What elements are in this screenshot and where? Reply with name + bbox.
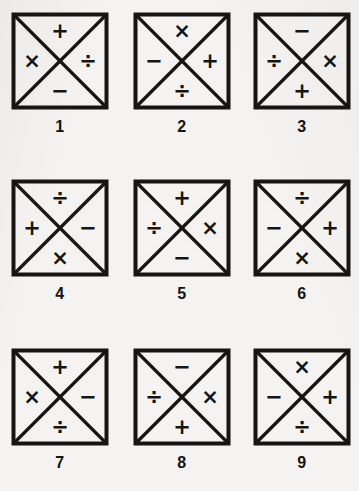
square-with-diagonals-6: ÷ − + × (253, 179, 351, 277)
symbol-top: + (11, 357, 109, 378)
symbol-top: × (253, 357, 351, 378)
symbol-right: × (195, 218, 225, 239)
symbol-left: + (17, 218, 47, 239)
figure-label-9: 9 (253, 454, 351, 472)
symbol-right: + (195, 51, 225, 72)
symbol-bottom: − (133, 248, 231, 269)
symbol-top: + (11, 21, 109, 42)
puzzle-figure-8[interactable]: − ÷ × + 8 (122, 336, 242, 491)
symbol-right: − (73, 387, 103, 408)
symbol-top: + (133, 188, 231, 209)
puzzle-figure-1[interactable]: + × ÷ − 1 (0, 0, 120, 169)
figure-label-2: 2 (133, 118, 231, 136)
figure-label-4: 4 (11, 285, 109, 303)
symbol-bottom: ÷ (11, 417, 109, 438)
square-with-diagonals-7: + × − ÷ (11, 348, 109, 446)
symbol-left: ÷ (259, 51, 289, 72)
square-with-diagonals-4: ÷ + − × (11, 179, 109, 277)
puzzle-figure-9[interactable]: × − + ÷ 9 (242, 336, 359, 491)
symbol-top: × (133, 21, 231, 42)
symbol-bottom: ÷ (253, 417, 351, 438)
puzzle-figure-2[interactable]: × − + ÷ 2 (122, 0, 242, 169)
symbol-right: × (195, 387, 225, 408)
figure-label-5: 5 (133, 285, 231, 303)
symbol-right: + (315, 387, 345, 408)
puzzle-figure-6[interactable]: ÷ − + × 6 (242, 167, 359, 336)
symbol-left: × (17, 51, 47, 72)
puzzle-figure-5[interactable]: + ÷ × − 5 (122, 167, 242, 336)
symbol-right: × (315, 51, 345, 72)
puzzle-figure-grid: + × ÷ − 1 × − + ÷ 2 − (0, 0, 359, 491)
figure-label-7: 7 (11, 454, 109, 472)
puzzle-figure-4[interactable]: ÷ + − × 4 (0, 167, 120, 336)
square-with-diagonals-8: − ÷ × + (133, 348, 231, 446)
symbol-bottom: + (133, 417, 231, 438)
square-with-diagonals-1: + × ÷ − (11, 12, 109, 110)
figure-label-3: 3 (253, 118, 351, 136)
figure-label-1: 1 (11, 118, 109, 136)
square-with-diagonals-9: × − + ÷ (253, 348, 351, 446)
puzzle-figure-3[interactable]: − ÷ × + 3 (242, 0, 359, 169)
symbol-top: ÷ (11, 188, 109, 209)
symbol-left: ÷ (139, 218, 169, 239)
square-with-diagonals-2: × − + ÷ (133, 12, 231, 110)
symbol-bottom: − (11, 81, 109, 102)
puzzle-figure-7[interactable]: + × − ÷ 7 (0, 336, 120, 491)
symbol-left: × (17, 387, 47, 408)
square-with-diagonals-3: − ÷ × + (253, 12, 351, 110)
square-with-diagonals-5: + ÷ × − (133, 179, 231, 277)
symbol-left: ÷ (139, 387, 169, 408)
symbol-bottom: × (253, 248, 351, 269)
figure-label-6: 6 (253, 285, 351, 303)
symbol-bottom: × (11, 248, 109, 269)
symbol-left: − (139, 51, 169, 72)
symbol-top: ÷ (253, 188, 351, 209)
symbol-top: − (133, 357, 231, 378)
symbol-right: ÷ (73, 51, 103, 72)
symbol-left: − (259, 387, 289, 408)
symbol-top: − (253, 21, 351, 42)
figure-label-8: 8 (133, 454, 231, 472)
symbol-bottom: ÷ (133, 81, 231, 102)
symbol-right: − (73, 218, 103, 239)
symbol-right: + (315, 218, 345, 239)
symbol-bottom: + (253, 81, 351, 102)
symbol-left: − (259, 218, 289, 239)
